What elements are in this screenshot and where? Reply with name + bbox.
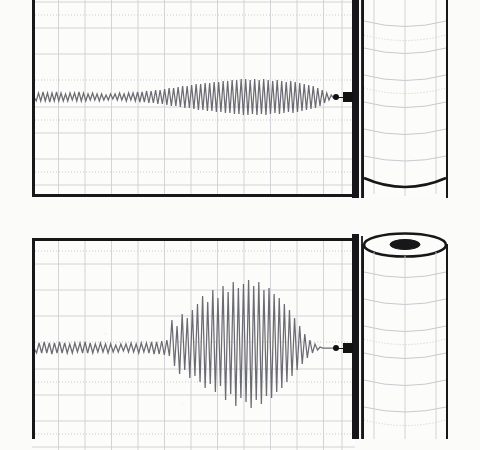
- trace-line-bottom: [32, 238, 355, 450]
- roll-core-hole: [390, 240, 420, 250]
- pen-carriage-bottom[interactable]: [352, 234, 359, 439]
- stylus-tip-bottom[interactable]: [343, 343, 353, 353]
- stylus-pivot-bottom: [333, 345, 339, 351]
- chart-border-left-bottom: [32, 238, 35, 439]
- chart-paper-bottom: [32, 238, 355, 450]
- paper-roll-bottom: [362, 232, 448, 439]
- chart-border-top-bottom: [32, 238, 357, 241]
